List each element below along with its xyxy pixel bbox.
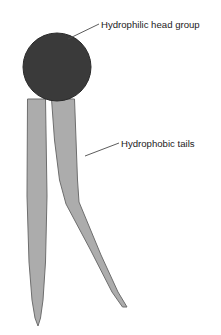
hydrophilic-head-group-circle — [23, 33, 91, 101]
label-hydrophilic-head-group: Hydrophilic head group — [101, 19, 200, 30]
label-hydrophobic-tails: Hydrophobic tails — [121, 138, 195, 149]
phospholipid-figure: Hydrophilic head group Hydrophobic tails — [0, 0, 221, 335]
phospholipid-diagram: Hydrophilic head group Hydrophobic tails — [0, 0, 221, 335]
